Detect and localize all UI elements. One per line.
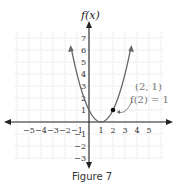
- x-tick-labels: −5−4−3−2−112345: [23, 126, 151, 135]
- x-tick-label: −3: [47, 126, 59, 135]
- x-tick-label: 3: [122, 126, 127, 135]
- x-tick-label: 2: [110, 126, 115, 135]
- x-tick-label: −5: [23, 126, 35, 135]
- x-axis-right-arrow-icon: [166, 119, 173, 125]
- annotation-arrowhead: [117, 110, 120, 114]
- y-tick-label: 4: [81, 70, 86, 79]
- y-tick-label: 7: [81, 34, 86, 43]
- curve-right-arrow-icon: [128, 45, 134, 52]
- x-tick-label: 4: [134, 126, 139, 135]
- x-axis-left-arrow-icon: [4, 119, 11, 125]
- highlight-point: [111, 108, 116, 113]
- x-tick-label: −2: [59, 126, 71, 135]
- x-tick-label: −4: [35, 126, 47, 135]
- x-tick-label: 1: [98, 126, 103, 135]
- y-tick-label: −3: [74, 154, 86, 163]
- point-label: (2, 1): [135, 81, 162, 92]
- y-tick-label: 5: [81, 58, 86, 67]
- x-tick-label: 5: [146, 126, 151, 135]
- y-axis-title: f(x): [80, 9, 100, 22]
- y-tick-label: 6: [81, 46, 86, 55]
- point-equation: f(2) = 1: [130, 94, 169, 105]
- y-tick-label: −1: [74, 130, 86, 139]
- y-axis-up-arrow-icon: [86, 21, 92, 28]
- point-marker: [111, 108, 116, 113]
- function-graph: −5−4−3−2−112345 7654321−1−2−3 f(x) (2, 1…: [0, 0, 177, 185]
- curve-left-arrow-icon: [68, 45, 74, 52]
- y-axis: [86, 21, 92, 169]
- y-tick-label: 1: [81, 106, 86, 115]
- y-axis-down-arrow-icon: [86, 162, 92, 169]
- figure-caption: Figure 7: [72, 171, 112, 182]
- y-tick-label: −2: [74, 142, 86, 151]
